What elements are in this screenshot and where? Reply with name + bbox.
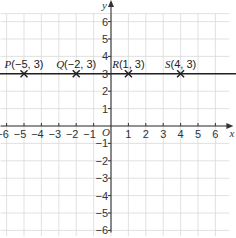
coordinate-grid-chart: xyO −6−5−4−3−2−1123456−6−5−4−3−2−1123456… — [0, 0, 236, 238]
x-tick-label: −4 — [31, 128, 44, 140]
y-tick-label: 2 — [102, 85, 108, 97]
grid-lines — [1, 14, 230, 237]
x-tick-label: −5 — [14, 128, 27, 140]
point-label: Q(−2, 3) — [56, 58, 96, 70]
y-tick-label: −1 — [95, 137, 108, 149]
x-tick-label: 4 — [178, 128, 184, 140]
x-tick-label: −2 — [66, 128, 79, 140]
data-series: P(−5, 3)Q(−2, 3)R(1, 3)S(4, 3) — [0, 58, 236, 78]
y-tick-label: 5 — [102, 33, 108, 45]
x-tick-label: −3 — [49, 128, 62, 140]
origin-label: O — [102, 126, 110, 138]
y-tick-label: −5 — [95, 207, 108, 219]
point-label: S(4, 3) — [165, 58, 196, 70]
x-tick-label: 5 — [195, 128, 201, 140]
x-tick-label: 1 — [125, 128, 131, 140]
x-tick-label: −1 — [83, 128, 96, 140]
x-tick-label: 3 — [160, 128, 166, 140]
y-tick-label: 4 — [102, 50, 108, 62]
x-axis-label: x — [228, 127, 234, 139]
y-tick-label: −4 — [95, 190, 108, 202]
axes: xyO — [1, 0, 235, 232]
point-label: R(1, 3) — [111, 58, 144, 70]
y-tick-label: 6 — [102, 16, 108, 28]
x-tick-label: −6 — [0, 128, 9, 140]
y-tick-label: 1 — [102, 103, 108, 115]
y-tick-label: −2 — [95, 155, 108, 167]
y-axis-label: y — [101, 0, 107, 11]
y-tick-label: −3 — [95, 172, 108, 184]
x-tick-label: 6 — [212, 128, 218, 140]
x-tick-label: 2 — [143, 128, 149, 140]
y-tick-label: −6 — [95, 224, 108, 236]
point-label: P(−5, 3) — [4, 58, 44, 70]
y-axis-arrow-icon — [108, 0, 114, 7]
